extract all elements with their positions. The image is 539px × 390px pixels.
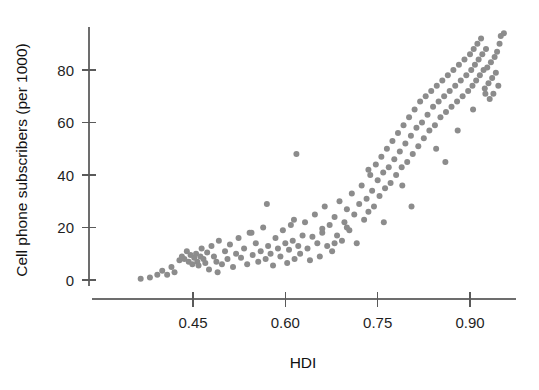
scatter-point [349,190,355,196]
y-axis-tick-label: 20 [57,219,74,236]
scatter-point [408,133,414,139]
scatter-point [344,206,350,212]
scatter-point [255,259,261,265]
scatter-plot-canvas: 020406080 0.450.600.750.90 HDI Cell phon… [0,0,539,390]
scatter-point [445,72,451,78]
scatter-point [215,269,221,275]
scatter-point [401,122,407,128]
y-axis-tick-label: 60 [57,114,74,131]
scatter-point [206,267,212,273]
scatter-point [354,240,360,246]
scatter-point [208,243,214,249]
scatter-point [484,64,490,70]
scatter-point [268,251,274,257]
y-axis-title: Cell phone subscribers (per 1000) [13,43,30,276]
y-axis-ticks: 020406080 [57,62,96,289]
scatter-point [216,238,222,244]
scatter-point [432,122,438,128]
scatter-point [399,164,405,170]
scatter-point [302,219,308,225]
scatter-point [341,219,347,225]
scatter-point [380,169,386,175]
scatter-point [339,238,345,244]
y-axis-tick-label: 80 [57,62,74,79]
scatter-point [447,88,453,94]
scatter-point [463,72,469,78]
scatter-point [458,78,464,84]
scatter-point [477,72,483,78]
x-axis-tick-label: 0.90 [455,314,484,331]
scatter-point [224,256,230,262]
scatter-point [402,141,408,147]
scatter-point [467,51,473,57]
scatter-point [494,49,500,55]
scatter-point [472,62,478,68]
scatter-point [473,78,479,84]
scatter-point [439,78,445,84]
scatter-point [314,240,320,246]
scatter-point [460,93,466,99]
scatter-point [483,46,489,52]
data-points-group [138,30,507,281]
scatter-point [430,104,436,110]
scatter-point [332,240,338,246]
scatter-point [419,120,425,126]
scatter-point [501,30,507,36]
scatter-point [423,93,429,99]
scatter-point [476,57,482,63]
scatter-point [309,234,315,240]
scatter-point [495,83,501,89]
scatter-point [443,109,449,115]
scatter-point [456,62,462,68]
scatter-point [307,257,313,263]
scatter-point [455,127,461,133]
scatter-point [369,188,375,194]
scatter-point [272,235,278,241]
scatter-point [449,104,455,110]
scatter-point [375,177,381,183]
scatter-point [288,222,294,228]
scatter-point [138,276,144,282]
scatter-point [389,138,395,144]
scatter-point [468,67,474,73]
scatter-point [373,162,379,168]
scatter-point [211,253,217,259]
scatter-point [397,148,403,154]
scatter-point [264,201,270,207]
scatter-point [450,67,456,73]
scatter-point [361,217,367,223]
scatter-point [482,91,488,97]
scatter-point [290,238,296,244]
scatter-point [351,211,357,217]
scatter-point [219,261,225,267]
scatter-point [470,106,476,112]
scatter-point [238,255,244,261]
scatter-point [490,91,496,97]
scatter-point [317,253,323,259]
scatter-plot-figure: ~ ~ 020406080 0.450.600.750.90 HDI Cell … [0,0,539,390]
scatter-point [277,253,283,259]
scatter-point [334,232,340,238]
scatter-point [434,83,440,89]
scatter-point [213,259,219,265]
scatter-point [489,75,495,81]
scatter-point [304,246,310,252]
scatter-point [391,156,397,162]
scatter-point [365,209,371,215]
scatter-point [410,151,416,157]
x-axis-tick-label: 0.75 [363,314,392,331]
scatter-point [319,230,325,236]
scatter-point [433,146,439,152]
scatter-point [437,114,443,120]
scatter-point [442,159,448,165]
scatter-point [367,172,373,178]
scatter-point [253,240,259,246]
scatter-point [241,246,247,252]
scatter-point [382,185,388,191]
scatter-point [452,83,458,89]
cropped-text-artifact: ~ ~ [52,0,87,8]
scatter-point [275,246,281,252]
scatter-point [295,243,301,249]
y-axis-tick-label: 0 [66,272,74,289]
scatter-point [327,222,333,228]
